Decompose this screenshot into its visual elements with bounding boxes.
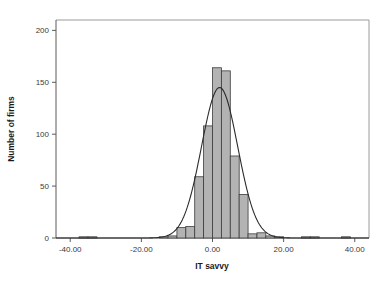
histogram-bar [230,156,239,238]
histogram-bar [177,228,186,238]
histogram-chart: 050100150200 -40.00-20.000.0020.0040.00 … [0,0,377,290]
histogram-bar [186,227,195,238]
histogram-bar [248,234,257,238]
chart-svg: 050100150200 -40.00-20.000.0020.0040.00 … [0,0,377,290]
y-tick-label: 200 [36,26,50,35]
histogram-bar [257,233,266,238]
x-tick-label: 0.00 [205,245,221,254]
x-tick-label: -40.00 [59,245,82,254]
y-tick-label: 0 [45,234,50,243]
y-axis-title: Number of firms [6,96,16,162]
x-tick-label: 40.00 [345,245,366,254]
histogram-bar [195,177,204,238]
x-axis-title: IT savvy [195,261,229,271]
histogram-bar [239,194,248,238]
chart-background [0,0,377,290]
y-tick-label: 150 [36,78,50,87]
histogram-bar [204,126,213,238]
y-tick-label: 50 [40,182,49,191]
y-tick-label: 100 [36,130,50,139]
x-tick-label: -20.00 [130,245,153,254]
histogram-bar [213,68,222,238]
histogram-bar [168,236,177,238]
x-tick-label: 20.00 [274,245,295,254]
